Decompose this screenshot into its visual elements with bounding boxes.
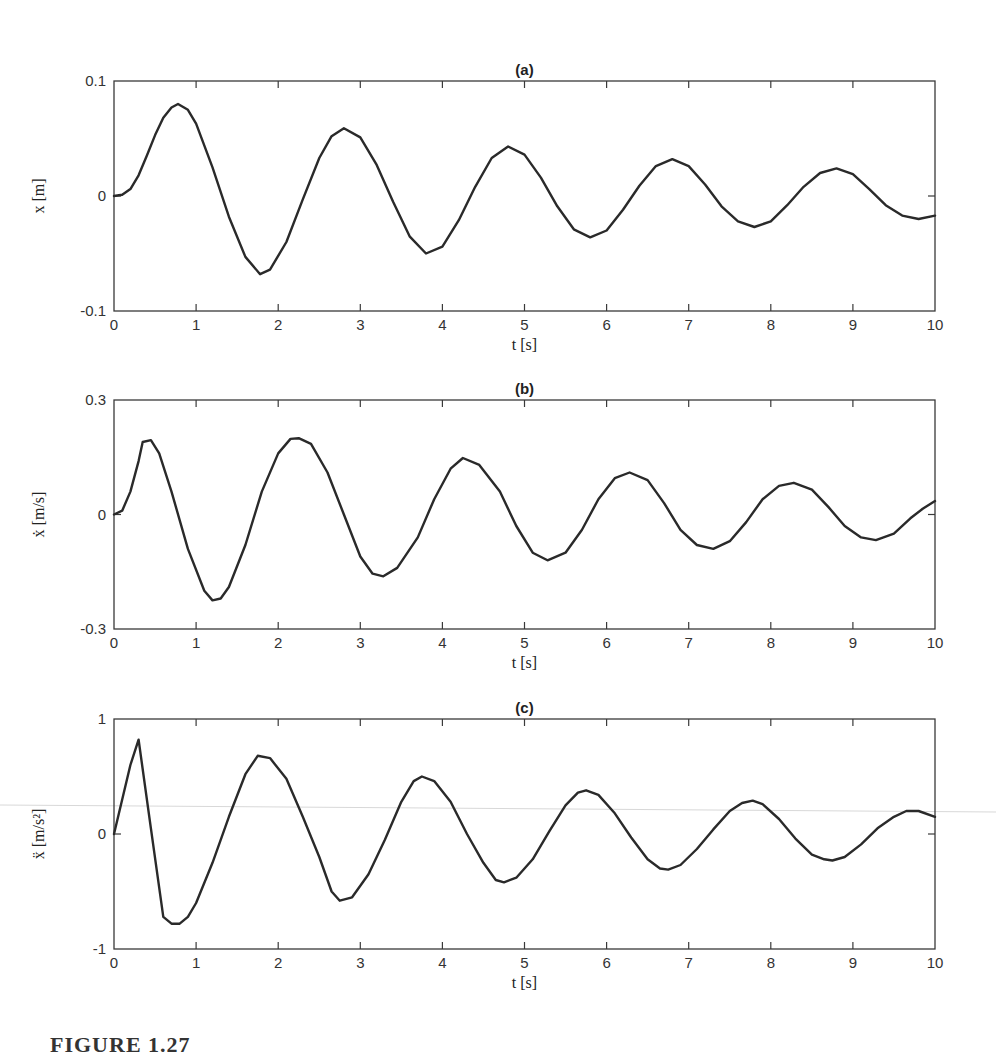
x-tick-label: 4 (438, 954, 446, 971)
x-tick-label: 6 (602, 634, 610, 651)
x-axis-label: t [s] (512, 654, 537, 671)
series-line-x_dot (114, 438, 935, 600)
x-tick-label: 10 (927, 954, 944, 971)
x-tick-label: 3 (356, 954, 364, 971)
x-tick-label: 3 (356, 634, 364, 651)
x-tick-label: 8 (767, 316, 775, 333)
x-tick-label: 1 (192, 954, 200, 971)
y-tick-label: -0.3 (80, 620, 106, 637)
y-tick-label: 0.3 (85, 391, 106, 408)
series-line-x (114, 104, 935, 274)
subplot-title: (b) (515, 380, 534, 397)
x-tick-label: 5 (520, 634, 528, 651)
x-axis-label: t [s] (512, 336, 537, 353)
x-tick-label: 7 (685, 316, 693, 333)
x-tick-label: 0 (110, 634, 118, 651)
x-tick-label: 0 (110, 954, 118, 971)
x-tick-label: 2 (274, 634, 282, 651)
x-tick-label: 2 (274, 954, 282, 971)
figure-caption: FIGURE 1.27 (50, 1032, 191, 1056)
x-tick-label: 5 (520, 954, 528, 971)
x-tick-label: 8 (767, 954, 775, 971)
y-tick-label: 1 (98, 710, 106, 727)
x-tick-label: 3 (356, 316, 364, 333)
axes-box (114, 81, 935, 311)
subplot-title: (c) (515, 699, 533, 716)
x-tick-label: 7 (685, 634, 693, 651)
x-tick-label: 4 (438, 316, 446, 333)
y-axis-label: x [m] (30, 178, 47, 213)
y-tick-label: -0.1 (80, 302, 106, 319)
x-axis-label: t [s] (512, 974, 537, 991)
x-tick-label: 5 (520, 316, 528, 333)
y-tick-label: -1 (93, 940, 106, 957)
x-tick-label: 6 (602, 316, 610, 333)
x-tick-label: 10 (927, 634, 944, 651)
x-tick-label: 1 (192, 316, 200, 333)
y-tick-label: 0 (98, 825, 106, 842)
x-tick-label: 7 (685, 954, 693, 971)
x-tick-label: 2 (274, 316, 282, 333)
x-tick-label: 4 (438, 634, 446, 651)
subplot-a: 012345678910-0.100.1(a)t [s]x [m] (30, 61, 943, 353)
x-tick-label: 9 (849, 954, 857, 971)
x-tick-label: 9 (849, 634, 857, 651)
subplot-c: 012345678910-101(c)t [s]ẍ [m/s²] (30, 699, 943, 991)
y-axis-label: ẍ [m/s²] (30, 809, 47, 860)
x-tick-label: 9 (849, 316, 857, 333)
y-tick-label: 0 (98, 187, 106, 204)
x-tick-label: 8 (767, 634, 775, 651)
axes-box (114, 719, 935, 949)
x-tick-label: 0 (110, 316, 118, 333)
series-line-x_ddot (114, 740, 935, 924)
subplot-b: 012345678910-0.300.3(b)t [s]ẋ [m/s] (30, 380, 943, 671)
x-tick-label: 10 (927, 316, 944, 333)
y-tick-label: 0 (98, 506, 106, 523)
y-tick-label: 0.1 (85, 72, 106, 89)
x-tick-label: 1 (192, 634, 200, 651)
x-tick-label: 6 (602, 954, 610, 971)
y-axis-label: ẋ [m/s] (30, 492, 47, 538)
subplot-title: (a) (515, 61, 533, 78)
axes-box (114, 400, 935, 629)
